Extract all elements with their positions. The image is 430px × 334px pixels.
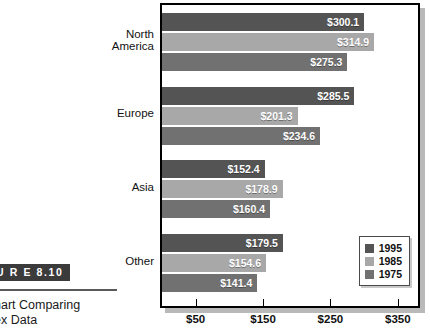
chart-frame: $300.1$314.9$275.3$285.5$201.3$234.6$152…: [160, 3, 420, 308]
bar-1985-1: $314.9: [162, 33, 374, 51]
legend-label: 1995: [379, 243, 402, 254]
legend-item-1975: 1975: [365, 268, 402, 280]
bar-1985-3: $178.9: [162, 180, 283, 198]
x-axis-tick-label: $150: [250, 313, 276, 325]
bar-1985-4: $154.6: [162, 254, 266, 272]
bar-1995-2: $285.5: [162, 87, 354, 105]
figure-number-badge: U R E 8.10: [0, 264, 70, 281]
category-label-3: Asia: [132, 181, 154, 194]
x-axis-tick-label: $50: [186, 313, 205, 325]
bar-1995-4: $179.5: [162, 234, 283, 252]
x-axis-tick-label: $350: [385, 313, 411, 325]
bar-value-label: $154.6: [229, 257, 261, 269]
bar-1975-4: $141.4: [162, 274, 257, 292]
bar-value-label: $141.4: [220, 277, 252, 289]
bar-1985-2: $201.3: [162, 107, 298, 125]
bar-1995-3: $152.4: [162, 160, 265, 178]
legend-item-1985: 1985: [365, 255, 402, 267]
bar-value-label: $179.5: [246, 237, 278, 249]
bar-value-label: $300.1: [327, 16, 359, 28]
bar-1975-3: $160.4: [162, 200, 270, 218]
bar-value-label: $178.9: [245, 183, 277, 195]
bar-value-label: $160.4: [233, 203, 265, 215]
x-axis-tick: [196, 299, 197, 306]
bar-value-label: $234.6: [283, 130, 315, 142]
bar-value-label: $152.4: [228, 163, 260, 175]
x-axis-tick-labels: $50$150$250$350: [160, 313, 428, 331]
legend-item-1995: 1995: [365, 242, 402, 254]
bar-value-label: $201.3: [260, 110, 292, 122]
legend-swatch-1995: [365, 244, 374, 253]
chart-legend: 199519851975: [359, 236, 410, 286]
legend-swatch-1975: [365, 270, 374, 279]
x-axis-tick: [263, 299, 264, 306]
bar-value-label: $275.3: [310, 56, 342, 68]
x-axis-tick: [330, 299, 331, 306]
category-label-1: North America: [112, 28, 154, 53]
bar-value-label: $314.9: [337, 36, 369, 48]
bar-1975-1: $275.3: [162, 53, 347, 71]
legend-label: 1985: [379, 256, 402, 267]
category-label-4: Other: [125, 255, 154, 268]
legend-label: 1975: [379, 269, 402, 280]
y-axis-category-labels: North AmericaEuropeAsiaOther: [88, 3, 158, 308]
bar-1995-1: $300.1: [162, 13, 364, 31]
x-axis-tick-label: $250: [318, 313, 344, 325]
bar-value-label: $285.5: [317, 90, 349, 102]
category-label-2: Europe: [117, 107, 154, 120]
figure-caption-line-2: ex Data: [0, 313, 152, 328]
bar-1975-2: $234.6: [162, 127, 320, 145]
legend-swatch-1985: [365, 257, 374, 266]
x-axis-tick: [398, 299, 399, 306]
